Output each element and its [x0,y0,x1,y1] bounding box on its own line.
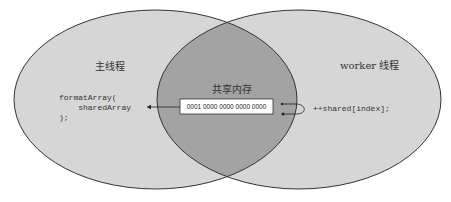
main-code-line-2: sharedArray [59,103,131,112]
shared-memory-venn-diagram: 主线程 worker 线程 共享内存 formatArray( sharedAr… [0,0,451,202]
loop-start-dot [281,103,283,105]
main-code-line-3: ); [59,113,69,122]
main-thread-label: 主线程 [95,60,125,72]
shared-memory-label: 共享内存 [212,83,252,95]
main-code-line-1: formatArray( [59,93,117,102]
memory-value: 0001 0000 0000 0000 0000 [187,103,267,110]
worker-code-line-1: ++shared[index]; [313,104,390,113]
loop-end-dot [282,113,285,116]
worker-thread-label: worker 线程 [340,59,399,71]
